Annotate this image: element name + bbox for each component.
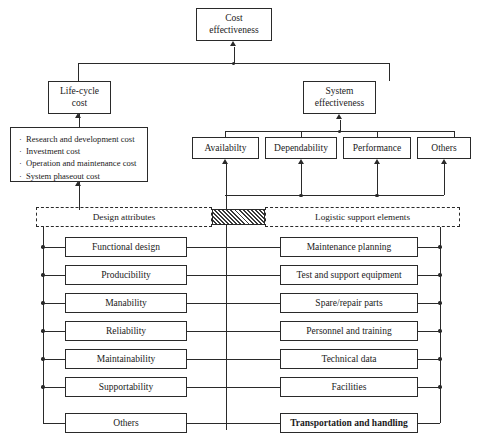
stub-manability [43, 303, 65, 304]
box-functional-design: Functional design [65, 237, 187, 257]
bus-lower-effectiveness [225, 195, 444, 196]
box-maintenance-planning: Maintenance planning [280, 237, 418, 257]
others-effectiveness-label: Others [431, 143, 456, 154]
hatched-interface-band [212, 209, 265, 225]
others-design-label: Others [113, 418, 138, 429]
junction-cost-effectiveness [232, 62, 235, 65]
cost-effectiveness-line1: Cost [225, 13, 242, 23]
stub-functional-design [43, 247, 65, 248]
link-maintainability [187, 359, 280, 360]
rail-design-attributes [43, 227, 44, 423]
junction-system-effectiveness [338, 130, 341, 133]
cost-item: Operation and maintenance cost [18, 157, 140, 169]
box-reliability: Reliability [65, 321, 187, 341]
riser-performance [377, 164, 378, 195]
box-maintainability: Maintainability [65, 349, 187, 369]
stub-maintainability [43, 359, 65, 360]
performance-label: Performance [353, 143, 402, 154]
box-dependability: Dependability [265, 137, 337, 159]
stub-personnel-training [418, 331, 440, 332]
producibility-label: Producibility [101, 270, 151, 281]
box-system-effectiveness: System effectiveness [303, 81, 376, 114]
box-others-effectiveness: Others [417, 137, 471, 159]
box-producibility: Producibility [65, 265, 187, 285]
maintainability-label: Maintainability [97, 354, 156, 365]
link-supportability [187, 387, 280, 388]
connector-to-cost-effectiveness [234, 47, 235, 63]
stub-test-support-equipment [418, 275, 440, 276]
junction-maintainability [41, 357, 44, 360]
box-availability: Availabilty [192, 137, 259, 159]
arrowhead-others-effectiveness [441, 159, 447, 164]
stub-facilities [418, 387, 440, 388]
connector-to-cost-items [79, 182, 80, 210]
facilities-label: Facilities [332, 382, 367, 393]
spare-repair-parts-label: Spare/repair parts [315, 298, 382, 309]
center-divider-line [226, 210, 227, 430]
box-personnel-training: Personnel and training [280, 321, 418, 341]
design-attributes-label: Design attributes [93, 212, 156, 222]
group-design-attributes: Design attributes [36, 207, 212, 227]
box-technical-data: Technical data [280, 349, 418, 369]
stub-producibility [43, 275, 65, 276]
junction-manability [41, 301, 44, 304]
riser-availability [226, 164, 227, 210]
box-life-cycle-cost: Life-cycle cost [48, 81, 111, 114]
junction-personnel-training [438, 329, 441, 332]
link-reliability [187, 331, 280, 332]
junction-maintenance-planning [438, 245, 441, 248]
junction-performance-bus [375, 194, 378, 197]
personnel-training-label: Personnel and training [306, 326, 391, 337]
life-cycle-cost-line1: Life-cycle [60, 86, 99, 96]
link-others-design [187, 423, 280, 424]
system-effectiveness-line1: System [326, 86, 354, 96]
stub-spare-repair-parts [418, 303, 440, 304]
group-logistic-support-elements: Logistic support elements [265, 207, 460, 227]
reliability-label: Reliability [106, 326, 146, 337]
bus-top-left-drop [78, 63, 79, 81]
box-facilities: Facilities [280, 377, 418, 397]
logistic-support-elements-label: Logistic support elements [315, 212, 410, 222]
riser-dependability [301, 164, 302, 195]
cost-effectiveness-line2: effectiveness [209, 25, 258, 35]
cost-item: System phaseout cost [18, 170, 140, 182]
diagram-canvas: Cost effectiveness Life-cycle cost Resea… [0, 0, 481, 447]
junction-supportability [41, 385, 44, 388]
maintenance-planning-label: Maintenance planning [307, 242, 392, 253]
junction-producibility [41, 273, 44, 276]
rail-logistic-support [440, 227, 441, 423]
junction-reliability [41, 329, 44, 332]
stub-supportability [43, 387, 65, 388]
box-others-design: Others [65, 413, 187, 433]
junction-technical-data [438, 357, 441, 360]
test-support-equipment-label: Test and support equipment [296, 270, 401, 281]
availability-label: Availabilty [204, 143, 246, 154]
junction-functional-design [41, 245, 44, 248]
stub-reliability [43, 331, 65, 332]
transportation-handling-label: Transportation and handling [290, 418, 408, 429]
manability-label: Manability [105, 298, 147, 309]
box-spare-repair-parts: Spare/repair parts [280, 293, 418, 313]
box-test-support-equipment: Test and support equipment [280, 265, 418, 285]
rail-left-foot [43, 423, 65, 424]
arrowhead-dependability [298, 159, 304, 164]
junction-test-support-equipment [438, 273, 441, 276]
arrowhead-availability [222, 159, 228, 164]
system-effectiveness-line2: effectiveness [315, 98, 364, 108]
stub-technical-data [418, 359, 440, 360]
rail-right-foot [418, 423, 440, 424]
list-cost-items: Research and development cost Investment… [10, 127, 148, 182]
link-manability [187, 303, 280, 304]
arrowhead-system-effectiveness [336, 114, 342, 119]
arrowhead-performance [374, 159, 380, 164]
link-functional-design [187, 247, 280, 248]
cost-item: Investment cost [18, 145, 140, 157]
bus-top-right-drop [389, 63, 390, 81]
life-cycle-cost-line2: cost [72, 98, 87, 108]
riser-others-effectiveness [444, 164, 445, 195]
cost-item: Research and development cost [18, 133, 140, 145]
junction-spare-repair-parts [438, 301, 441, 304]
junction-facilities [438, 385, 441, 388]
supportability-label: Supportability [99, 382, 153, 393]
stub-maintenance-planning [418, 247, 440, 248]
